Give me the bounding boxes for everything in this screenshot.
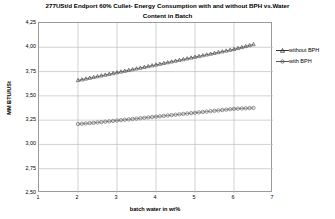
plot-svg xyxy=(39,23,273,193)
x-tick-label: 1 xyxy=(31,194,45,201)
legend-item[interactable]: with BPH xyxy=(276,57,335,66)
legend-item[interactable]: without BPH xyxy=(276,46,335,55)
data-point-marker xyxy=(252,42,255,45)
chart-title-line-2: Content in Batch xyxy=(143,12,193,19)
y-tick-label: 4,25 xyxy=(16,19,36,25)
series-1 xyxy=(76,42,255,81)
legend-label: with BPH xyxy=(289,57,312,66)
x-tick-label: 7 xyxy=(265,194,279,201)
x-tick-label: 4 xyxy=(148,194,162,201)
x-tick-label: 3 xyxy=(109,194,123,201)
x-tick-label: 5 xyxy=(187,194,201,201)
plot-area xyxy=(38,22,272,192)
x-tick-label: 6 xyxy=(226,194,240,201)
chart-title-line-1: 277USt/d Endport 60% Cullet- Energy Cons… xyxy=(46,2,290,9)
y-axis-tick-labels: 2,502,753,003,253,503,754,004,25 xyxy=(12,22,36,192)
triangle-marker-icon xyxy=(276,46,289,55)
chart-container: 277USt/d Endport 60% Cullet- Energy Cons… xyxy=(0,0,335,219)
chart-title: 277USt/d Endport 60% Cullet- Energy Cons… xyxy=(22,1,313,20)
y-tick-label: 2,75 xyxy=(16,165,36,171)
y-tick-label: 3,25 xyxy=(16,116,36,122)
y-tick-label: 4,00 xyxy=(16,43,36,49)
legend-label: without BPH xyxy=(289,46,319,55)
chart-legend: without BPHwith BPH xyxy=(276,46,335,68)
y-tick-label: 3,00 xyxy=(16,140,36,146)
series-2 xyxy=(76,106,255,126)
x-axis-title: batch water in wt% xyxy=(38,206,272,212)
circle-marker-icon xyxy=(276,57,289,66)
x-axis-tick-labels: 1234567 xyxy=(38,194,272,204)
x-tick-label: 2 xyxy=(70,194,84,201)
y-tick-label: 3,75 xyxy=(16,68,36,74)
y-tick-label: 3,50 xyxy=(16,92,36,98)
